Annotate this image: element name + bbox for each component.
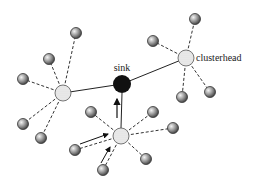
clusterhead-node xyxy=(178,50,194,66)
sensor-node xyxy=(98,165,109,176)
sensor-node xyxy=(71,28,82,39)
sensor-node xyxy=(141,154,152,165)
sensor-node xyxy=(18,119,29,130)
sensor-node xyxy=(70,145,81,156)
member-link xyxy=(63,33,76,93)
sink-node xyxy=(113,75,131,93)
sensor-node xyxy=(148,107,159,118)
wsn-cluster-diagram: sink clusterhead xyxy=(0,0,257,186)
clusterhead-node xyxy=(55,85,71,101)
sensor-node xyxy=(44,54,55,65)
sensor-node xyxy=(148,36,159,47)
sensor-node xyxy=(18,74,29,85)
sink-label: sink xyxy=(114,62,131,73)
sink-link xyxy=(121,93,122,128)
clusterhead-node xyxy=(113,128,129,144)
sensor-node xyxy=(36,133,47,144)
arrow-icon xyxy=(101,147,110,163)
sensor-node xyxy=(190,14,201,25)
arrow-icon xyxy=(80,134,108,144)
sensor-node xyxy=(177,92,188,103)
nodes-layer xyxy=(18,14,216,176)
sensor-node xyxy=(205,87,216,98)
sensor-node xyxy=(86,107,97,118)
sink-link xyxy=(122,58,186,84)
sensor-node xyxy=(168,123,179,134)
clusterhead-label: clusterhead xyxy=(196,52,242,63)
